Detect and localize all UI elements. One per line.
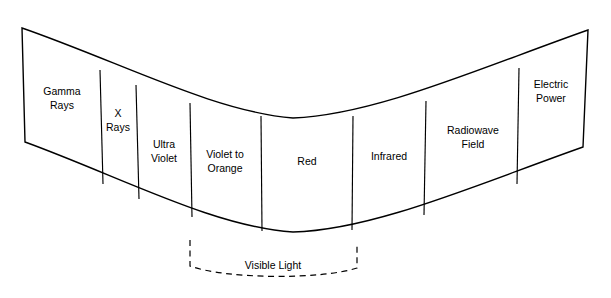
band-label-x-rays: X — [114, 107, 121, 119]
band-label-x-rays-line2: Rays — [106, 121, 130, 133]
band-label-ultra-violet: Ultra — [153, 138, 175, 150]
band-label-radiowave-field: Radiowave — [447, 124, 499, 136]
band-label-violet-to-orange: Violet to — [206, 148, 244, 160]
band-label-gamma-rays: Gamma — [43, 85, 81, 97]
band-label-ultra-violet-line2: Violet — [151, 152, 177, 164]
band-label-electric-power-line2: Power — [536, 92, 566, 104]
band-label-red: Red — [297, 155, 316, 167]
band-label-violet-to-orange-line2: Orange — [207, 162, 242, 174]
band-label-infrared: Infrared — [371, 150, 407, 162]
spectrum-svg-canvas: Gamma Rays X Rays Ultra Violet Violet to… — [0, 0, 611, 298]
spectrum-diagram: Gamma Rays X Rays Ultra Violet Violet to… — [0, 0, 611, 298]
band-label-gamma-rays-line2: Rays — [50, 99, 74, 111]
visible-light-label: Visible Light — [245, 259, 302, 271]
band-label-radiowave-field-line2: Field — [462, 138, 485, 150]
band-label-electric-power: Electric — [534, 78, 568, 90]
